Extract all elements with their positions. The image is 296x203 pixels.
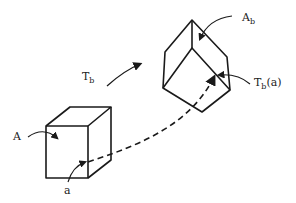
- label-image-point-tba: Tb(a): [254, 76, 282, 91]
- label-ab-pointer-arrow: [200, 16, 232, 39]
- transformation-diagram: Tb A a Ab Tb(a): [0, 0, 296, 203]
- label-cube-a: A: [12, 130, 22, 143]
- label-point-a-pointer-arrow: [68, 162, 85, 182]
- label-a-pointer-arrow: [28, 132, 57, 138]
- label-cube-ab: Ab: [241, 11, 255, 26]
- label-point-a: a: [64, 184, 71, 197]
- trajectory-dashed-path: [88, 77, 214, 162]
- transform-arrow: [107, 64, 140, 86]
- label-transform-tb: Tb: [82, 70, 94, 85]
- cube-ab: [163, 20, 230, 112]
- cube-a: [46, 107, 111, 178]
